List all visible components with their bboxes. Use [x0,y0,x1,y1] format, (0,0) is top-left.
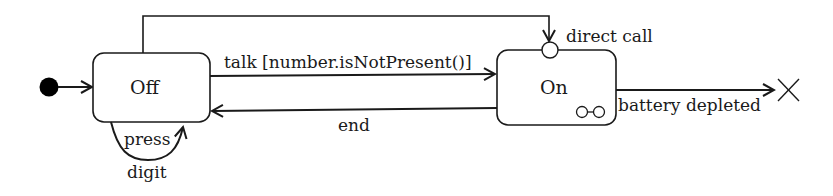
end-transition-arrow [212,108,497,111]
press-label: press [124,131,171,148]
direct-call-label: direct call [566,28,653,45]
talk-transition-label: talk [number.isNotPresent()] [224,54,472,71]
direct-call-transition-arrow [143,16,549,53]
battery-depleted-label: battery depleted [618,97,761,114]
digit-label: digit [127,164,166,181]
talk-transition-arrow [210,74,495,76]
end-transition-label: end [338,117,370,134]
state-off-label: Off [130,78,159,97]
state-on-label: On [540,78,568,97]
initial-node [40,78,59,97]
entry-point-direct-call [542,42,558,58]
terminate-node [778,79,799,101]
state-diagram: Off On talk [number.isNotPresent()] end … [0,0,833,196]
